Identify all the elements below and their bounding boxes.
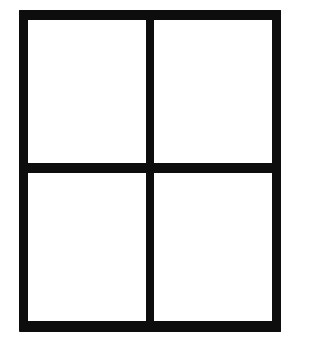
horizontal-divider <box>20 163 281 173</box>
pane-top-right <box>154 20 272 163</box>
pane-top-left <box>28 20 146 163</box>
pane-bottom-left <box>28 173 146 321</box>
pane-bottom-right <box>154 173 272 321</box>
